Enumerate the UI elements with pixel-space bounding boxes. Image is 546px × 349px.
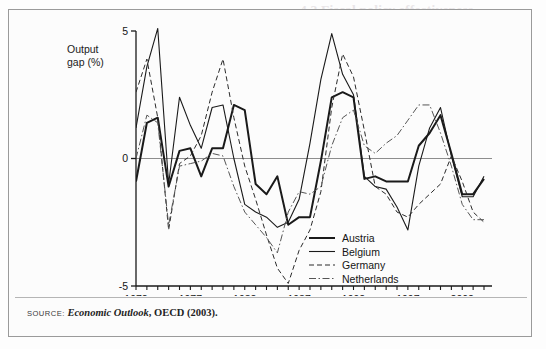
legend-label-austria: Austria xyxy=(342,232,375,244)
x-tick-label: 1997 xyxy=(396,293,420,296)
caption-divider xyxy=(15,297,527,298)
chart-legend: AustriaBelgiumGermanyNetherlands xyxy=(309,232,399,285)
y-tick-label: 0 xyxy=(122,152,128,164)
source-caption: SOURCE: Economic Outlook, OECD (2003). xyxy=(27,307,218,318)
line-chart-svg: -5051972197719821987199219972002AustriaB… xyxy=(9,10,533,296)
legend-label-germany: Germany xyxy=(342,259,386,271)
source-publication-title: Economic Outlook xyxy=(67,307,148,318)
y-tick-label: -5 xyxy=(119,280,128,292)
x-tick-label: 1972 xyxy=(124,293,148,296)
series-group xyxy=(136,28,484,283)
x-tick-label: 1982 xyxy=(233,293,257,296)
source-publisher: , OECD (2003). xyxy=(149,307,218,318)
figure-frame: Output gap (%) -505197219771982198719921… xyxy=(8,9,532,337)
x-tick-label: 1992 xyxy=(342,293,366,296)
source-label: SOURCE: xyxy=(27,309,65,318)
series-line-germany xyxy=(136,54,484,284)
legend-label-netherlands: Netherlands xyxy=(342,273,399,285)
chart-plot-area: Output gap (%) -505197219771982198719921… xyxy=(9,10,533,296)
figure-root: 4.2 Fiscal policy effectiveness Output g… xyxy=(0,0,546,349)
legend-label-belgium: Belgium xyxy=(342,246,380,258)
x-tick-label: 1987 xyxy=(287,293,311,296)
y-tick-label: 5 xyxy=(122,25,128,37)
x-tick-label: 1977 xyxy=(179,293,203,296)
x-tick-label: 2002 xyxy=(451,293,475,296)
